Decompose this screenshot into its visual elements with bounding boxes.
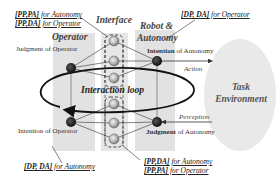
interface-node (109, 118, 119, 128)
interface-node (109, 56, 119, 66)
interaction-loop-label: Interaction loop (81, 86, 144, 96)
autonomy-judgment-node (152, 117, 162, 127)
annotation-top-left-2: [PP,DA] for Operator (15, 20, 81, 28)
annotation-bottom-right-1: [PP,DA] for Autonomy (144, 158, 212, 166)
robot-label-line1: Robot & (140, 22, 173, 32)
annotation-bottom-right-2: [PP,PA] for Operator (144, 167, 209, 175)
interface-node (109, 36, 119, 46)
annotation-top-right: [DP, DA] for Operator (181, 11, 250, 19)
operator-judgment-node (66, 63, 76, 73)
robot-label-line2: Autonomy (137, 34, 178, 44)
task-environment-label: Task Environment (211, 83, 271, 104)
annotation-bottom-left: [DP, DA] for Autonomy (24, 163, 95, 171)
interface-node (109, 73, 119, 83)
judgment-of-autonomy-label: Judgment of Autonomy (146, 129, 215, 136)
intention-of-operator-label: Intention of Operator (18, 128, 78, 135)
interaction-loop-diagram: [PP,PA] for Autonomy [PP,DA] for Operato… (0, 0, 277, 184)
operator-label: Operator (52, 33, 87, 43)
annotation-top-left-1: [PP,PA] for Autonomy (15, 11, 82, 19)
judgment-of-operator-label: Judgment of Operator (16, 46, 77, 53)
action-label: Action (184, 66, 202, 73)
operator-intention-node (66, 117, 76, 127)
interface-node (109, 134, 119, 144)
interface-node (109, 99, 119, 109)
intention-of-autonomy-label: Intention of Autonomy (147, 48, 214, 55)
perception-label: Perception (179, 114, 209, 121)
interface-label: Interface (96, 16, 132, 26)
autonomy-intention-node (152, 56, 162, 66)
